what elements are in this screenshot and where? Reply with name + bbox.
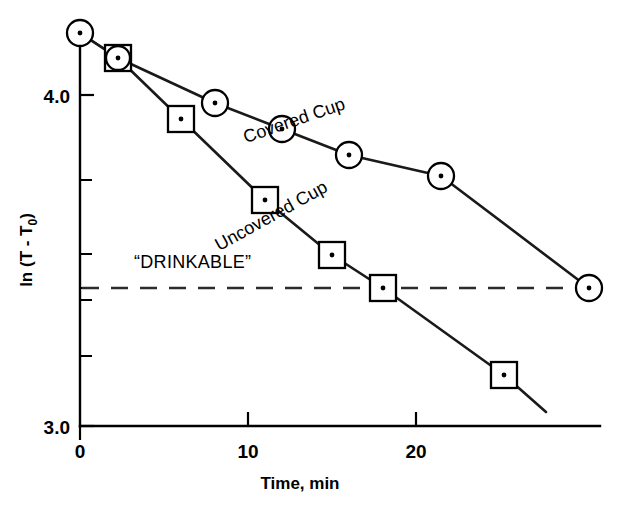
data-point-circle	[576, 275, 602, 301]
data-point-circle	[106, 46, 130, 70]
y-tick-marks	[80, 95, 94, 426]
data-point-square	[168, 106, 194, 132]
temperature-decay-chart: 4.0 3.0 0 10 20 Time, min ln (T - T0) “D…	[0, 0, 620, 508]
data-point-circle	[202, 90, 228, 116]
data-point-square	[370, 275, 396, 301]
y-tick-label-4.0: 4.0	[44, 86, 70, 107]
drinkable-threshold-label: “DRINKABLE”	[134, 252, 251, 272]
x-axis-title: Time, min	[260, 474, 339, 493]
svg-text:ln (T - T0): ln (T - T0)	[17, 213, 40, 287]
data-point-circle	[336, 142, 362, 168]
y-axis-title: ln (T - T0)	[17, 213, 40, 287]
x-tick-label-20: 20	[405, 441, 426, 462]
data-point-circle	[67, 20, 93, 46]
uncovered-cup-markers	[105, 45, 517, 388]
x-tick-label-0: 0	[75, 441, 86, 462]
axes-group	[80, 26, 600, 426]
data-point-square	[319, 242, 345, 268]
figure-container: 4.0 3.0 0 10 20 Time, min ln (T - T0) “D…	[0, 0, 620, 508]
uncovered-cup-line	[80, 33, 546, 412]
y-axis-title-main: ln (T - T	[17, 225, 36, 287]
data-point-circle	[428, 163, 454, 189]
y-axis-title-close: )	[17, 213, 36, 219]
y-tick-label-3.0: 3.0	[44, 417, 70, 438]
data-point-square	[491, 362, 517, 388]
x-tick-label-10: 10	[237, 441, 258, 462]
